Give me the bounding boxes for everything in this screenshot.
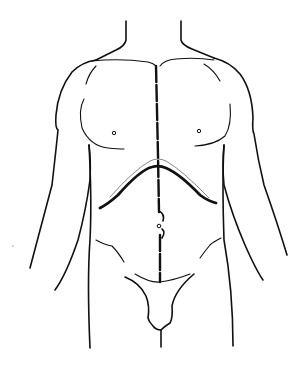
inguinal-left: [96, 240, 124, 262]
pubic-line: [135, 274, 190, 282]
incisions: [100, 66, 216, 282]
arm-left-inner: [55, 145, 90, 290]
scan-speck: [12, 245, 14, 247]
pectoral-left-upper: [86, 66, 96, 84]
lower-abdomen: [96, 238, 221, 347]
pectoral-left: [80, 99, 124, 149]
neck-right: [181, 21, 214, 58]
nipple-left: [112, 131, 115, 134]
arm-right-inner: [223, 145, 263, 280]
midline-incision: [156, 66, 159, 212]
torso-right-side: [223, 145, 233, 346]
neck-left: [96, 21, 126, 60]
arm-right-outer: [214, 58, 287, 255]
torso-left-side: [89, 145, 91, 348]
torso-diagram: [0, 0, 308, 367]
clavicle-left: [92, 60, 156, 66]
nipple-right: [197, 129, 200, 132]
inguinal-right: [200, 238, 221, 258]
arm-left-outer: [30, 60, 96, 268]
pectoral-right-upper: [204, 64, 220, 81]
umbilicus: [157, 224, 161, 228]
pectoral-right: [195, 104, 230, 146]
